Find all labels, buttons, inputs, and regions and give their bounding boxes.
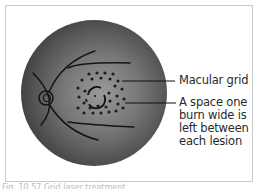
label-macular-grid: Macular grid [179, 74, 248, 87]
label-spacing-note: A space one burn wide is left between ea… [179, 96, 253, 148]
figure-caption: Fig. 10.57 Grid laser treatment [2, 183, 125, 189]
fundus-circle [21, 20, 167, 166]
